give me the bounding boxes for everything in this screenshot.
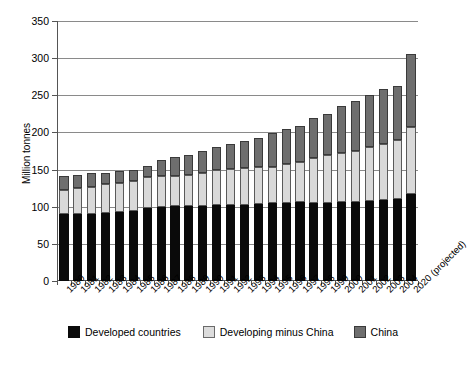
stacked-bar[interactable]: [212, 147, 221, 281]
bar-slot: [335, 21, 349, 281]
stacked-bar[interactable]: [129, 170, 138, 281]
bar-segment: [115, 183, 124, 212]
x-tick-mark: [251, 281, 252, 285]
bar-slot: [196, 21, 210, 281]
x-tick-mark: [57, 281, 58, 285]
stacked-bar[interactable]: [254, 138, 263, 281]
bar-segment: [59, 176, 68, 190]
bar-slot: [307, 21, 321, 281]
bar-segment: [351, 202, 360, 281]
bar-segment: [393, 140, 402, 199]
x-tick-mark: [99, 281, 100, 285]
bar-segment: [323, 203, 332, 281]
stacked-bar[interactable]: [73, 175, 82, 281]
bar-slot: [238, 21, 252, 281]
stacked-bar[interactable]: [170, 157, 179, 281]
stacked-bar[interactable]: [101, 173, 110, 281]
x-tick-mark: [224, 281, 225, 285]
bar-segment: [295, 202, 304, 281]
bar-segment: [157, 176, 166, 208]
stacked-bar[interactable]: [295, 126, 304, 281]
bar-slot: [404, 21, 418, 281]
bar-segment: [254, 167, 263, 204]
bar-slot: [362, 21, 376, 281]
bar-segment: [365, 95, 374, 147]
x-tick-mark: [279, 281, 280, 285]
bar-segment: [73, 214, 82, 281]
bar-segment: [198, 151, 207, 173]
bar-slot: [168, 21, 182, 281]
x-tick-mark: [113, 281, 114, 285]
bar-segment: [143, 166, 152, 177]
x-tick-mark: [404, 281, 405, 285]
bar-segment: [184, 155, 193, 175]
bar-segment: [157, 160, 166, 176]
bar-segment: [282, 164, 291, 203]
bar-slot: [85, 21, 99, 281]
stacked-bar[interactable]: [268, 133, 277, 281]
bar-segment: [309, 158, 318, 203]
stacked-bar[interactable]: [309, 118, 318, 281]
bar-segment: [379, 200, 388, 281]
stacked-bar[interactable]: [282, 129, 291, 281]
bar-segment: [198, 173, 207, 206]
bar-segment: [87, 187, 96, 214]
stacked-bar[interactable]: [184, 155, 193, 281]
bar-segment: [212, 170, 221, 205]
bar-segment: [309, 203, 318, 281]
bar-slot: [71, 21, 85, 281]
bar-segment: [406, 127, 415, 194]
bar-slot: [99, 21, 113, 281]
x-tick-label: 2020 (projected): [411, 238, 468, 295]
bar-segment: [184, 175, 193, 206]
bar-segment: [406, 54, 415, 128]
stacked-bar[interactable]: [226, 144, 235, 281]
bar-segment: [87, 173, 96, 186]
bar-segment: [365, 201, 374, 281]
legend-item-developed-countries: Developed countries: [68, 326, 181, 338]
stacked-bar[interactable]: [59, 176, 68, 281]
stacked-bar[interactable]: [365, 95, 374, 281]
stacked-bar[interactable]: [87, 173, 96, 281]
bar-segment: [170, 157, 179, 176]
bar-slot: [154, 21, 168, 281]
stacked-bar[interactable]: [240, 141, 249, 281]
bar-segment: [323, 114, 332, 156]
stacked-bar[interactable]: [393, 86, 402, 281]
y-tick-label: 350: [19, 16, 49, 26]
bar-segment: [268, 203, 277, 281]
chart-legend: Developed countries Developing minus Chi…: [68, 326, 398, 338]
bar-slot: [126, 21, 140, 281]
bar-slot: [182, 21, 196, 281]
bar-segment: [101, 173, 110, 185]
stacked-bar[interactable]: [337, 106, 346, 281]
y-tick-label: 0: [19, 276, 49, 286]
bar-slot: [279, 21, 293, 281]
bar-segment: [268, 167, 277, 203]
stacked-bar[interactable]: [379, 89, 388, 281]
stacked-bar[interactable]: [406, 54, 415, 281]
bar-segment: [309, 118, 318, 157]
stacked-bar[interactable]: [351, 101, 360, 281]
x-tick-mark: [335, 281, 336, 285]
x-tick-mark: [307, 281, 308, 285]
bar-slot: [293, 21, 307, 281]
stacked-bar[interactable]: [323, 114, 332, 281]
bar-segment: [212, 205, 221, 281]
stacked-bar[interactable]: [198, 151, 207, 281]
bar-segment: [282, 129, 291, 165]
bar-segment: [73, 175, 82, 188]
stacked-bar[interactable]: [115, 171, 124, 281]
bar-slot: [57, 21, 71, 281]
x-tick-mark: [85, 281, 86, 285]
legend-label-developed-countries: Developed countries: [85, 326, 181, 338]
stacked-bar[interactable]: [157, 160, 166, 281]
x-tick-mark: [71, 281, 72, 285]
bar-segment: [129, 181, 138, 211]
stacked-bar[interactable]: [143, 166, 152, 281]
bar-segment: [295, 126, 304, 162]
bar-segment: [323, 155, 332, 203]
bar-segment: [73, 188, 82, 214]
bar-slot: [113, 21, 127, 281]
